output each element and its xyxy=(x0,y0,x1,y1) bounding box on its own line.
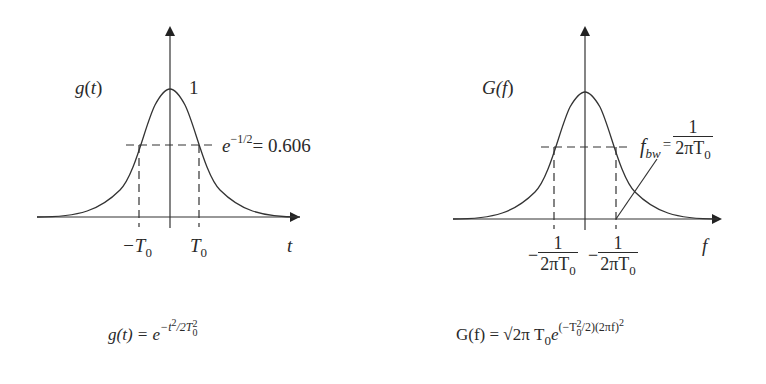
right-tick-pos-label: −12πT0 xyxy=(588,234,638,276)
left-formula: g(t) = e−t2/2T20 xyxy=(108,326,198,346)
left-tick-neg-label: −T0 xyxy=(122,236,152,255)
right-formula: G(f) = √2π T0e(−T20/2)(2πf)2 xyxy=(456,326,624,346)
left-level-label: e−1/2= 0.606 xyxy=(222,136,311,155)
left-tick-pos-label: T0 xyxy=(190,236,207,255)
right-tick-neg-label: −12πT0 xyxy=(528,234,578,276)
left-peak-label: 1 xyxy=(189,78,199,97)
left-plot xyxy=(37,28,300,228)
left-xlabel: t xyxy=(287,236,292,255)
bandwidth-label: fbw=12πT0 xyxy=(640,128,713,170)
right-ylabel: G(f) xyxy=(482,78,514,97)
right-xlabel: f xyxy=(702,236,707,255)
left-ylabel: g(t) xyxy=(75,78,102,97)
